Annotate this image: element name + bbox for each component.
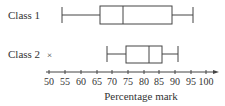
class2-label: Class 2 bbox=[8, 48, 40, 60]
tick-label: 70 bbox=[107, 76, 117, 87]
tick-label: 60 bbox=[76, 76, 86, 87]
class2-outlier-marker: × bbox=[47, 50, 52, 60]
x-axis-tick-labels: 50 55 60 65 70 75 80 85 90 95 100 bbox=[44, 76, 214, 87]
tick-label: 80 bbox=[139, 76, 149, 87]
x-axis bbox=[46, 70, 219, 74]
class2-box bbox=[126, 46, 162, 63]
class1-boxplot bbox=[62, 6, 193, 24]
class1-box bbox=[100, 6, 172, 24]
tick-label: 95 bbox=[186, 76, 196, 87]
class1-label: Class 1 bbox=[8, 9, 40, 21]
tick-label: 100 bbox=[199, 76, 214, 87]
box-plot-chart: Class 1 Class 2 × 50 55 60 bbox=[0, 0, 225, 106]
tick-label: 85 bbox=[154, 76, 164, 87]
tick-label: 55 bbox=[60, 76, 70, 87]
tick-label: 50 bbox=[44, 76, 54, 87]
tick-label: 65 bbox=[92, 76, 102, 87]
axis-arrow-icon bbox=[213, 70, 219, 74]
class2-boxplot bbox=[107, 46, 178, 63]
x-axis-title: Percentage mark bbox=[104, 90, 178, 102]
tick-label: 90 bbox=[170, 76, 180, 87]
tick-label: 75 bbox=[123, 76, 133, 87]
